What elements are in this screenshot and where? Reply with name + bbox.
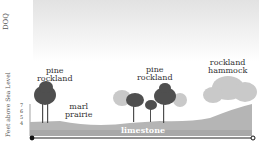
habitat-label-marl-prairie: marlprairie xyxy=(65,103,92,119)
habitat-label-rockland-hammock: rocklandhammock xyxy=(208,59,247,75)
habitat-label-pine-rockland-1: pinerockland xyxy=(37,67,73,83)
substrate-label: limestone xyxy=(121,125,165,135)
habitat-label-pine-rockland-2: pinerockland xyxy=(137,66,173,82)
